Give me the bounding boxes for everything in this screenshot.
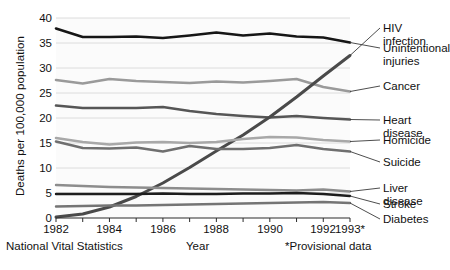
series-label-cancer: Cancer xyxy=(383,80,420,93)
provisional-data-note: *Provisional data xyxy=(285,240,371,252)
leader-line-homicide xyxy=(350,140,380,142)
series-label-stroke: Stroke xyxy=(383,198,416,211)
series-label-homicide: Homicide xyxy=(383,134,431,147)
series-label-diabetes: Diabetes xyxy=(383,213,428,226)
leader-line-cancer xyxy=(350,86,380,92)
leader-line-heart-disease xyxy=(350,120,380,121)
x-axis-title: Year xyxy=(186,240,209,252)
leader-line-hiv-infection xyxy=(350,28,380,56)
callout-leader-lines xyxy=(350,28,380,219)
series-label-suicide: Suicide xyxy=(383,156,421,169)
leader-line-liver-disease xyxy=(350,188,380,192)
x-tick-marks xyxy=(56,218,350,222)
leader-line-unintentional-injuries xyxy=(350,43,380,49)
leader-line-suicide xyxy=(350,152,380,163)
source-note: National Vital Statistics xyxy=(6,240,123,252)
leader-line-diabetes xyxy=(350,203,380,219)
series-label-unintentional-injuries: Unintentional injuries xyxy=(383,42,450,67)
leader-line-stroke xyxy=(350,196,380,204)
